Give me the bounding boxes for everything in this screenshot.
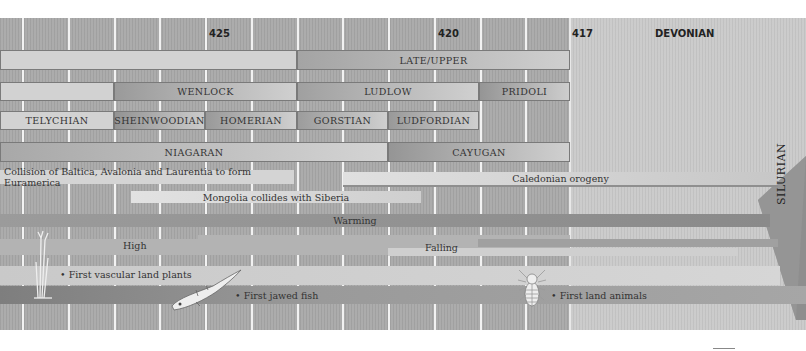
climate-warming-label: Warming <box>333 215 376 226</box>
silurian-label: SILURIAN <box>775 143 788 205</box>
sea-level-falling-label: Falling <box>425 242 458 253</box>
jawed-fish-icon <box>168 268 243 313</box>
event-land-animals-label: • First land animals <box>551 290 647 301</box>
event-collision-bar: Collision of Baltica, Avalonia and Laure… <box>0 170 294 184</box>
sea-level-high-label: High <box>123 240 147 251</box>
land-animal-icon <box>516 268 548 310</box>
event-caledonian-bar: Caledonian orogeny <box>343 172 778 185</box>
bottom-marker <box>713 348 735 349</box>
plant-icon <box>28 228 58 300</box>
sea-level-falling-step <box>478 239 778 247</box>
event-collision-label: Collision of Baltica, Avalonia and Laure… <box>4 166 294 188</box>
event-caledonian-label: Caledonian orogeny <box>512 173 609 184</box>
event-mongolia-label: Mongolia collides with Siberia <box>203 192 350 203</box>
event-fish-text: First jawed fish <box>244 290 319 301</box>
event-animals-text: First land animals <box>560 290 647 301</box>
event-fish-label: • First jawed fish <box>235 290 318 301</box>
caledonian-shadow <box>343 185 778 187</box>
life-animals-bar <box>0 286 806 304</box>
climate-warming-bar: Warming <box>0 214 770 227</box>
event-mongolia-bar: Mongolia collides with Siberia <box>131 191 421 203</box>
